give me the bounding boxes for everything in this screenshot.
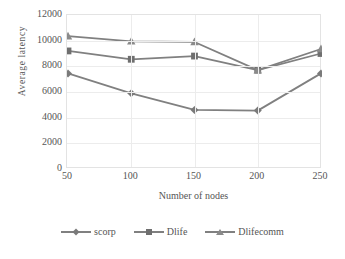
- legend-item-dlife[interactable]: Dlife: [134, 226, 188, 237]
- legend-label: Dlifecomm: [238, 226, 284, 237]
- x-axis-tick-label: 200: [249, 171, 264, 181]
- data-point-scorp: [67, 69, 72, 77]
- legend-label: Dlife: [167, 226, 188, 237]
- plot-area: [66, 14, 321, 168]
- data-point-dlife: [67, 48, 71, 55]
- y-axis-tick-label: 0: [22, 163, 62, 173]
- legend-label: scorp: [94, 226, 116, 237]
- x-axis-tick-label: 250: [313, 171, 328, 181]
- y-axis-tick-label: 2000: [22, 137, 62, 147]
- y-axis-tick-label: 10000: [22, 35, 62, 45]
- x-axis-title: Number of nodes: [66, 190, 321, 201]
- gridline-horizontal: [67, 92, 320, 93]
- x-axis-tick-labels: 50100150200250: [66, 171, 321, 185]
- y-axis-tick-label: 8000: [22, 60, 62, 70]
- legend-item-dlifecomm[interactable]: Dlifecomm: [205, 226, 284, 237]
- gridline-horizontal: [67, 41, 320, 42]
- legend-marker-square-icon: [134, 227, 164, 237]
- legend-marker-diamond-icon: [61, 227, 91, 237]
- chart-legend: scorpDlifeDlifecomm: [0, 226, 345, 237]
- y-axis-tick-labels: 020004000600080001000012000: [22, 0, 62, 259]
- gridline-vertical: [258, 15, 259, 167]
- legend-item-scorp[interactable]: scorp: [61, 226, 116, 237]
- x-axis-tick-label: 100: [123, 171, 138, 181]
- gridline-horizontal: [67, 66, 320, 67]
- x-axis-tick-label: 150: [186, 171, 201, 181]
- y-axis-tick-label: 12000: [22, 9, 62, 19]
- line-chart: Average latency 020004000600080001000012…: [0, 0, 345, 259]
- gridline-vertical: [131, 15, 132, 167]
- x-axis-tick-label: 50: [62, 171, 72, 181]
- gridline-horizontal: [67, 118, 320, 119]
- gridline-horizontal: [67, 143, 320, 144]
- y-axis-tick-label: 6000: [22, 86, 62, 96]
- y-axis-tick-label: 4000: [22, 112, 62, 122]
- legend-marker-triangle-icon: [205, 227, 235, 237]
- data-point-dlifecomm: [317, 45, 322, 53]
- gridline-vertical: [195, 15, 196, 167]
